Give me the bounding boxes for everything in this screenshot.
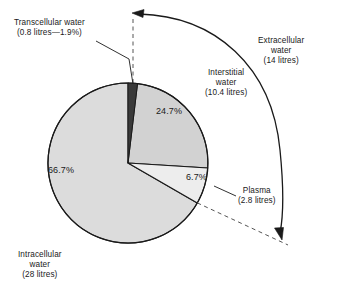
label-intracellular-water: Intracellular water (28 litres): [18, 250, 62, 280]
percent-label-interstitial: 24.7%: [156, 106, 182, 116]
label-transcellular-water: Transcellular water (0.8 litres—1.9%): [14, 18, 85, 38]
label-intracellular-line2: water: [18, 260, 62, 270]
leader-line-transcellular-lower: [129, 59, 133, 84]
label-extracellular-line1: Extracellular: [258, 36, 304, 46]
label-transcellular-line1: Transcellular water: [14, 18, 85, 28]
bracket-arrowhead-top: [132, 10, 144, 18]
label-extracellular-line3: (14 litres): [258, 56, 304, 66]
label-intracellular-line1: Intracellular: [18, 250, 62, 260]
leader-line-plasma: [214, 186, 236, 196]
percent-label-intracellular: 66.7%: [48, 165, 74, 175]
leader-line-transcellular: [96, 41, 129, 59]
pie-chart-figure: Transcellular water (0.8 litres—1.9%) In…: [0, 0, 337, 296]
label-interstitial-water: Interstitial water (10.4 litres): [205, 68, 247, 98]
label-plasma: Plasma (2.8 litres): [238, 186, 276, 206]
pie-slice-interstitial: [128, 84, 208, 168]
label-interstitial-line1: Interstitial: [205, 68, 247, 78]
percent-label-plasma: 6.7%: [186, 172, 207, 182]
label-intracellular-line3: (28 litres): [18, 270, 62, 280]
label-plasma-line2: (2.8 litres): [238, 196, 276, 206]
label-plasma-line1: Plasma: [238, 186, 276, 196]
label-interstitial-line3: (10.4 litres): [205, 88, 247, 98]
pie-slices: [48, 83, 208, 243]
label-transcellular-line2: (0.8 litres—1.9%): [14, 28, 85, 38]
label-interstitial-line2: water: [205, 78, 247, 88]
label-extracellular-water: Extracellular water (14 litres): [258, 36, 304, 66]
dashed-reference-line-bottom: [197, 203, 288, 245]
label-extracellular-line2: water: [258, 46, 304, 56]
bracket-arrowhead-bottom: [275, 228, 284, 241]
